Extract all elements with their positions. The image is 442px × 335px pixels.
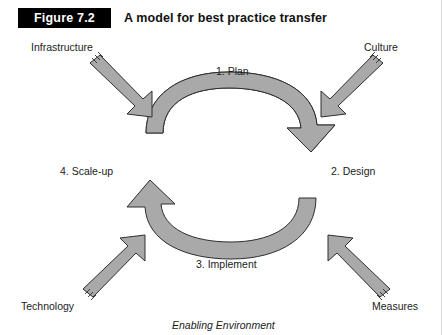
culture-arrow bbox=[321, 52, 383, 117]
enabler-label-infrastructure: Infrastructure bbox=[31, 41, 93, 53]
top-cycle-arrow bbox=[146, 72, 335, 152]
figure-container: Figure 7.2 A model for best practice tra… bbox=[0, 0, 442, 335]
cycle-step-label-implement: 3. Implement bbox=[196, 258, 257, 270]
enabler-label-measures: Measures bbox=[372, 300, 418, 312]
enabler-label-culture: Culture bbox=[364, 41, 398, 53]
cycle-step-label-plan: 1. Plan bbox=[216, 65, 249, 77]
bottom-cycle-arrow bbox=[127, 180, 316, 259]
technology-arrow bbox=[83, 235, 145, 300]
figure-caption: Enabling Environment bbox=[172, 319, 275, 331]
enabler-label-technology: Technology bbox=[21, 300, 74, 312]
cycle-step-label-scale-up: 4. Scale-up bbox=[60, 165, 113, 177]
infrastructure-arrow bbox=[90, 52, 152, 117]
cycle-step-label-design: 2. Design bbox=[331, 165, 375, 177]
measures-arrow bbox=[328, 235, 390, 300]
